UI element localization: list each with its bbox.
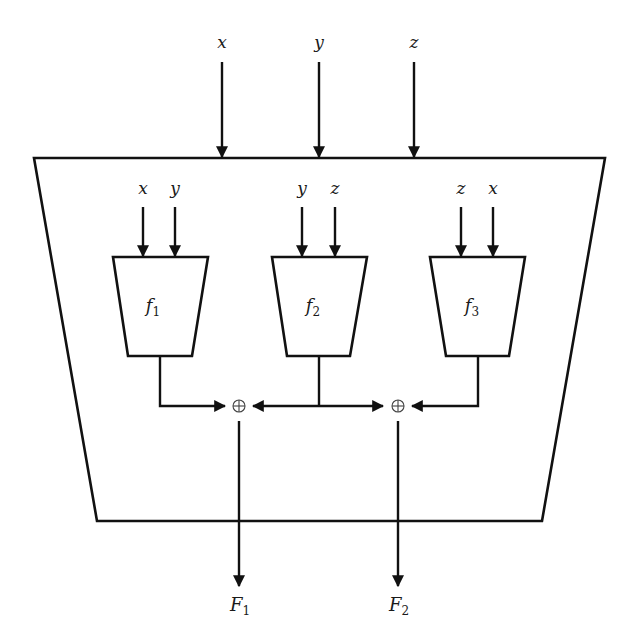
f1-trapezoid bbox=[113, 257, 208, 356]
f2-input-label-z: z bbox=[330, 178, 341, 198]
f1-input-label-x: x bbox=[138, 178, 148, 198]
input-label-y: y bbox=[313, 32, 324, 52]
input-label-z: z bbox=[409, 32, 420, 52]
function-block-f2: y z f2 bbox=[272, 178, 367, 356]
xor-gate-1 bbox=[233, 400, 245, 412]
output-label-F1: F1 bbox=[229, 594, 250, 618]
outer-block bbox=[34, 158, 605, 521]
f2-input-label-y: y bbox=[296, 178, 307, 198]
f3-input-label-x: x bbox=[488, 178, 498, 198]
f1-input-label-y: y bbox=[169, 178, 180, 198]
xor-gate-2 bbox=[392, 400, 404, 412]
f3-input-label-z: z bbox=[456, 178, 467, 198]
function-block-f1: x y f1 bbox=[113, 178, 208, 356]
f1-label: f1 bbox=[144, 295, 160, 319]
wire-f3-to-xor2 bbox=[412, 356, 478, 406]
diagram-canvas: x y z x y f1 y z f2 z x f3 bbox=[0, 0, 623, 643]
function-block-f3: z x f3 bbox=[430, 178, 525, 356]
wire-f1-to-xor1 bbox=[160, 356, 225, 406]
f3-label: f3 bbox=[463, 295, 479, 319]
input-label-x: x bbox=[217, 32, 227, 52]
f2-label: f2 bbox=[304, 295, 320, 319]
output-label-F2: F2 bbox=[388, 594, 409, 618]
